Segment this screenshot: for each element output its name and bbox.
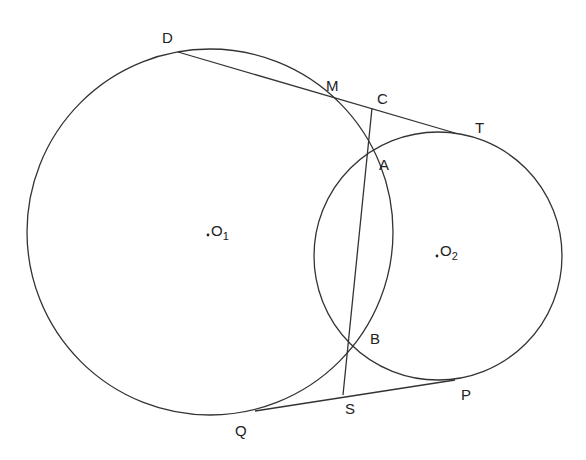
diagram-svg (0, 0, 586, 460)
tangent-line-dt (178, 52, 455, 133)
center-dot-o2 (436, 255, 439, 258)
label-o2: O2 (440, 243, 458, 262)
label-b: B (370, 331, 380, 346)
label-t: T (475, 120, 484, 135)
label-m: M (326, 78, 339, 93)
line-cs (343, 108, 372, 395)
label-d: D (162, 30, 173, 45)
label-a: A (379, 157, 389, 172)
circle-o1 (27, 49, 393, 415)
center-dot-o1 (207, 234, 210, 237)
label-s: S (345, 401, 355, 416)
label-o1: O1 (211, 223, 229, 242)
label-q: Q (235, 423, 247, 438)
label-p: P (461, 387, 471, 402)
geometry-diagram: D M C T A B S P Q O1 O2 (0, 0, 586, 460)
label-c: C (377, 91, 388, 106)
